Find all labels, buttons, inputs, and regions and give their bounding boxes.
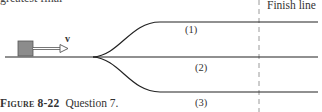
figure-number: Figure 8-22 <box>0 97 59 109</box>
finish-line-label: Finish line <box>267 0 316 11</box>
track-2-label: (2) <box>195 62 207 73</box>
track-3-label: (3) <box>195 97 207 108</box>
velocity-arrow-icon <box>33 45 68 53</box>
figure-caption: Figure 8-22Question 7. <box>0 97 118 109</box>
track-1-label: (1) <box>185 24 197 35</box>
caption-text: Question 7. <box>65 97 118 109</box>
block <box>18 41 33 56</box>
track-diagram <box>0 0 322 112</box>
velocity-label: v <box>65 33 70 44</box>
track-1 <box>93 22 318 57</box>
